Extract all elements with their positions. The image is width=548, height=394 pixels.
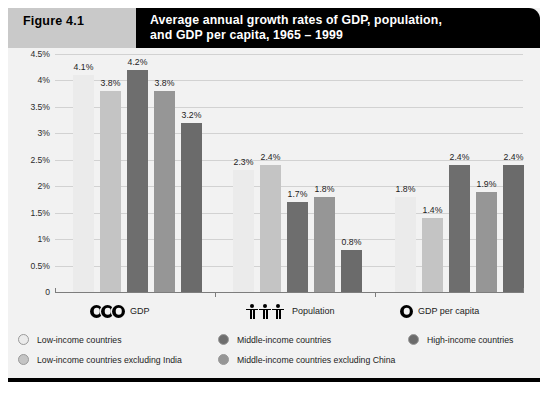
bar-value-label: 1.8%: [396, 184, 416, 194]
y-axis-tick-label: 3.5%: [8, 102, 50, 112]
legend-label: Middle-income countries excluding China: [237, 355, 395, 365]
legend-swatch-icon: [218, 354, 229, 365]
x-axis-right-cap: [523, 288, 524, 293]
person-icon: [272, 304, 284, 319]
legend-swatch-icon: [408, 334, 419, 345]
figure-number: Figure 4.1: [23, 14, 84, 28]
bar-value-label: 0.8%: [342, 237, 362, 247]
y-axis-tick-label: 1%: [8, 234, 50, 244]
bar-value-label: 2.4%: [450, 152, 470, 162]
bar: 3.8%: [154, 91, 175, 292]
category-label-text: GDP per capita: [418, 306, 479, 316]
legend-item[interactable]: High-income countries: [408, 334, 513, 345]
coins-icon: [90, 305, 123, 318]
category-label-gdp-per-capita: GDP per capita: [400, 300, 479, 322]
bar-groups: 4.1%3.8%4.2%3.8%3.2%2.3%2.4%1.7%1.8%0.8%…: [55, 54, 523, 292]
bar-value-label: 3.8%: [155, 78, 175, 88]
x-axis-line: [55, 292, 524, 293]
chart-area: 00.5%1%1.5%2%2.5%3%3.5%4%4.5% 4.1%3.8%4.…: [8, 48, 540, 378]
coin-icon: [400, 305, 413, 318]
legend-swatch-icon: [18, 334, 29, 345]
legend-swatch-icon: [218, 334, 229, 345]
legend-label: Low-income countries: [37, 335, 122, 345]
bar-value-label: 1.7%: [288, 189, 308, 199]
y-axis-tick-label: 4%: [8, 75, 50, 85]
legend-item[interactable]: Low-income countries: [18, 334, 122, 345]
bar: 2.4%: [449, 165, 470, 292]
bar-value-label: 3.2%: [182, 110, 202, 120]
category-label-text: Population: [292, 306, 335, 316]
people-icon: [246, 304, 285, 319]
figure-title: Average annual growth rates of GDP, popu…: [150, 13, 530, 42]
legend-label: High-income countries: [427, 335, 513, 345]
plot-area: 4.1%3.8%4.2%3.8%3.2%2.3%2.4%1.7%1.8%0.8%…: [55, 54, 523, 292]
bar-value-label: 4.1%: [74, 62, 94, 72]
bar: 4.2%: [127, 70, 148, 292]
category-labels: GDPPopulationGDP per capita: [8, 300, 540, 326]
y-axis-tick-label: 2.5%: [8, 155, 50, 165]
chart-legend: Low-income countriesMiddle-income countr…: [8, 330, 540, 374]
y-axis-tick-label: 2%: [8, 181, 50, 191]
legend-swatch-icon: [18, 354, 29, 365]
y-axis-tick-label: 0.5%: [8, 261, 50, 271]
y-axis: 00.5%1%1.5%2%2.5%3%3.5%4%4.5%: [8, 54, 54, 304]
bar-group: 1.8%1.4%2.4%1.9%2.4%: [395, 54, 524, 292]
figure-panel: Figure 4.1 Average annual growth rates o…: [8, 8, 540, 378]
category-label-population: Population: [246, 300, 335, 322]
bar: 2.4%: [503, 165, 524, 292]
person-icon: [259, 304, 271, 319]
y-axis-tick-label: 3%: [8, 128, 50, 138]
x-axis-tick: [215, 292, 216, 297]
y-axis-tick-label: 1.5%: [8, 208, 50, 218]
y-axis-tick-label: 4.5%: [8, 49, 50, 59]
x-axis-left-cap: [55, 288, 56, 293]
figure-number-block: Figure 4.1: [8, 8, 136, 48]
bar: 3.8%: [100, 91, 121, 292]
bottom-rule: [8, 378, 540, 382]
figure-header: Figure 4.1 Average annual growth rates o…: [8, 8, 540, 48]
bar: 1.8%: [314, 197, 335, 292]
bar: 2.3%: [233, 170, 254, 292]
bar: 1.4%: [422, 218, 443, 292]
bar-value-label: 4.2%: [128, 57, 148, 67]
figure-title-block: Average annual growth rates of GDP, popu…: [136, 8, 540, 48]
legend-item[interactable]: Middle-income countries: [218, 334, 331, 345]
bar-value-label: 1.9%: [477, 179, 497, 189]
legend-item[interactable]: Low-income countries excluding India: [18, 354, 182, 365]
bar: 2.4%: [260, 165, 281, 292]
bar-value-label: 1.8%: [315, 184, 335, 194]
bar-value-label: 2.4%: [504, 152, 524, 162]
bar: 1.9%: [476, 192, 497, 292]
category-label-text: GDP: [130, 306, 150, 316]
bar: 1.7%: [287, 202, 308, 292]
bar-value-label: 3.8%: [101, 78, 121, 88]
bar-value-label: 2.3%: [234, 157, 254, 167]
bar: 3.2%: [181, 123, 202, 292]
legend-label: Low-income countries excluding India: [37, 355, 182, 365]
figure-title-line1: Average annual growth rates of GDP, popu…: [150, 13, 442, 27]
category-label-gdp: GDP: [90, 300, 150, 322]
y-axis-tick-label: 0: [8, 287, 50, 297]
bar-group: 2.3%2.4%1.7%1.8%0.8%: [233, 54, 362, 292]
legend-item[interactable]: Middle-income countries excluding China: [218, 354, 395, 365]
legend-label: Middle-income countries: [237, 335, 331, 345]
person-icon: [246, 304, 258, 319]
bar: 1.8%: [395, 197, 416, 292]
figure-title-line2: and GDP per capita, 1965 – 1999: [150, 28, 343, 42]
x-axis-tick: [375, 292, 376, 297]
bar: 0.8%: [341, 250, 362, 292]
bar: 4.1%: [73, 75, 94, 292]
coin-icon: [112, 305, 125, 318]
bar-value-label: 2.4%: [261, 152, 281, 162]
bar-group: 4.1%3.8%4.2%3.8%3.2%: [73, 54, 202, 292]
coin-icon: [400, 305, 411, 318]
bar-value-label: 1.4%: [423, 205, 443, 215]
